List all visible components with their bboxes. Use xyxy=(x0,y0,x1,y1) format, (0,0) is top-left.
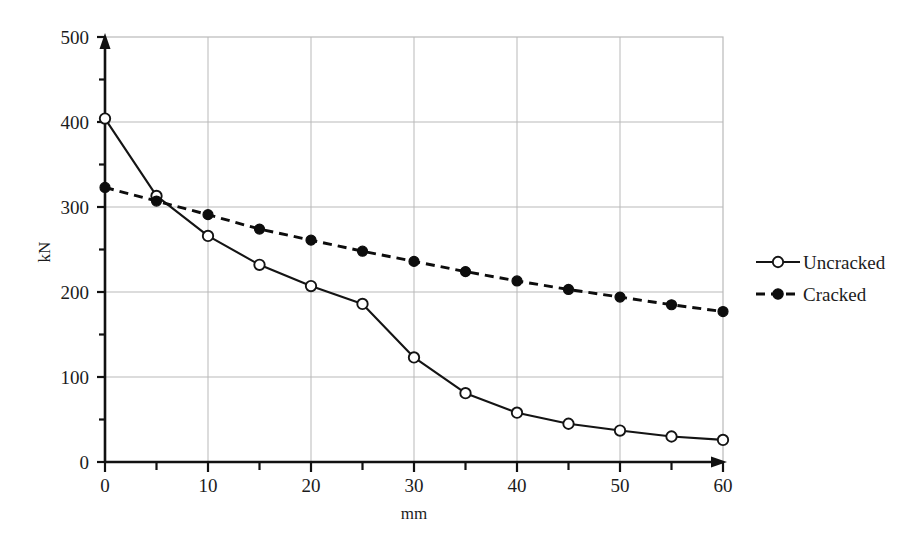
y-tick-label-100: 100 xyxy=(61,367,90,388)
data-point xyxy=(203,231,213,241)
x-tick-label-60: 60 xyxy=(714,475,733,496)
x-tick-label-50: 50 xyxy=(611,475,630,496)
data-point xyxy=(615,292,625,302)
x-axis-major-ticks xyxy=(105,462,723,472)
y-tick-label-200: 200 xyxy=(61,282,90,303)
y-tick-label-400: 400 xyxy=(61,112,90,133)
data-point xyxy=(512,408,522,418)
data-point xyxy=(512,276,522,286)
x-axis-tick-labels: 0 10 20 30 40 50 60 xyxy=(100,475,732,496)
chart-figure: 0 100 200 300 400 500 0 10 20 30 40 50 6… xyxy=(0,0,922,537)
y-tick-label-0: 0 xyxy=(80,452,90,473)
data-point xyxy=(100,113,110,123)
data-point xyxy=(409,352,419,362)
data-point xyxy=(461,267,471,277)
chart-legend: Uncracked Cracked xyxy=(756,252,886,305)
x-tick-label-10: 10 xyxy=(199,475,218,496)
gridlines-vertical xyxy=(208,37,620,462)
legend-label-uncracked: Uncracked xyxy=(803,252,886,273)
data-point xyxy=(718,307,728,317)
legend-marker-filled-circle-icon xyxy=(773,289,783,299)
data-point xyxy=(306,281,316,291)
data-point xyxy=(666,431,676,441)
y-axis-tick-labels: 0 100 200 300 400 500 xyxy=(61,27,90,473)
legend-item-cracked: Cracked xyxy=(756,284,867,305)
x-axis xyxy=(105,457,727,468)
data-point xyxy=(667,300,677,310)
data-point xyxy=(615,425,625,435)
data-point xyxy=(564,284,574,294)
data-point xyxy=(409,256,419,266)
data-point xyxy=(306,235,316,245)
data-point xyxy=(203,210,213,220)
legend-label-cracked: Cracked xyxy=(803,284,867,305)
x-tick-label-30: 30 xyxy=(405,475,424,496)
x-axis-title: mm xyxy=(401,504,427,523)
y-axis xyxy=(100,33,111,462)
data-point xyxy=(357,299,367,309)
data-point xyxy=(563,419,573,429)
x-tick-label-40: 40 xyxy=(508,475,527,496)
y-axis-title: kN xyxy=(35,242,54,263)
data-point xyxy=(460,388,470,398)
data-point xyxy=(254,260,264,270)
data-point xyxy=(152,196,162,206)
data-point xyxy=(100,182,110,192)
data-point xyxy=(718,435,728,445)
x-tick-label-20: 20 xyxy=(302,475,321,496)
y-tick-label-500: 500 xyxy=(61,27,90,48)
data-point xyxy=(255,224,265,234)
line-chart: 0 100 200 300 400 500 0 10 20 30 40 50 6… xyxy=(0,0,922,537)
data-point xyxy=(358,246,368,256)
legend-item-uncracked: Uncracked xyxy=(756,252,886,273)
legend-marker-open-circle-icon xyxy=(773,257,783,267)
y-tick-label-300: 300 xyxy=(61,197,90,218)
x-tick-label-0: 0 xyxy=(100,475,110,496)
